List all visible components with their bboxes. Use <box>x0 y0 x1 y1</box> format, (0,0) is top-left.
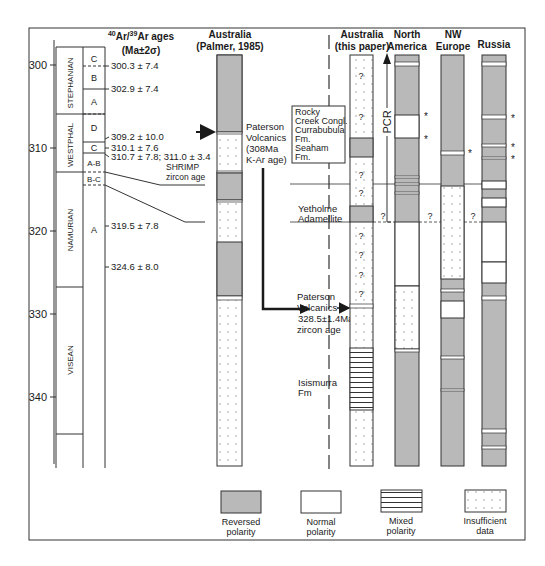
star-marker: * <box>511 142 515 153</box>
svg-text:Volcanics: Volcanics <box>246 132 286 143</box>
svg-text:zircon age: zircon age <box>297 324 341 335</box>
shrimp-label: SHRIMP <box>166 162 199 172</box>
ar-age-5: 310.7 ± 7.8; 311.0 ± 3.4 <box>111 151 211 162</box>
star-marker: * <box>468 148 472 159</box>
column-titles: Australia (Palmer, 1985) Australia (this… <box>196 29 510 52</box>
col-nwe-title2: Europe <box>436 41 471 52</box>
col-palmer-title1: Australia <box>209 29 252 40</box>
age-scale: 300 310 320 330 340 <box>29 40 56 464</box>
svg-text:Paterson: Paterson <box>246 121 284 132</box>
col-aus-title2: (this paper) <box>335 41 389 52</box>
tick-320: 320 <box>29 225 47 237</box>
rocky-creek-box: Rocky Creek Congl. Currabubula Fm. Seaha… <box>292 106 348 163</box>
connector-arrow <box>263 168 302 309</box>
question-mark: ? <box>358 170 363 180</box>
tick-340: 340 <box>29 391 47 403</box>
question-mark: ? <box>470 211 475 221</box>
substage-c-lower: C <box>91 143 98 153</box>
ar-age-6: 319.5 ± 7.8 <box>111 220 158 231</box>
col-russia-title: Russia <box>478 39 511 50</box>
question-mark: ? <box>358 270 363 280</box>
column-russia: * * * <box>482 55 515 466</box>
pcr-indicator: PCR ? <box>380 53 394 222</box>
question-mark: ? <box>358 250 363 260</box>
question-mark: ? <box>358 231 363 241</box>
col-nwe-title1: NW <box>445 29 462 40</box>
arrow-up-icon <box>383 53 391 64</box>
col-na-title2: America <box>387 41 427 52</box>
zircon-age-label: zircon age <box>166 172 205 182</box>
question-mark: ? <box>358 188 363 198</box>
stage-westphal: WESTPHAL <box>66 122 75 167</box>
star-marker: * <box>511 154 515 165</box>
legend-swatch-reversed <box>221 491 261 513</box>
column-nw-europe: * ? <box>441 55 476 466</box>
substage-b: B <box>91 73 97 83</box>
legend: Reversed polarity Normal polarity Mixed … <box>221 490 507 537</box>
ar-age-7: 324.6 ± 8.0 <box>111 261 158 272</box>
polarity-correlation-diagram: 300 310 320 330 340 STEPHANIAN WESTPHAL … <box>0 0 545 566</box>
svg-text:Normal: Normal <box>306 517 335 527</box>
substage-a-upper: A <box>91 97 97 107</box>
substage-c-upper: C <box>91 54 98 64</box>
svg-text:Mixed: Mixed <box>389 516 413 526</box>
svg-text:(Ma±2σ): (Ma±2σ) <box>122 45 160 56</box>
substage-d: D <box>91 123 98 133</box>
svg-text:(308Ma: (308Ma <box>246 143 279 154</box>
svg-text:328.5±1.4Ma: 328.5±1.4Ma <box>298 313 354 324</box>
svg-text:Paterson: Paterson <box>297 291 335 302</box>
ar-age-3: 309.2 ± 10.0 <box>111 131 164 142</box>
col-palmer-title2: (Palmer, 1985) <box>196 41 263 52</box>
ar-age-2: 302.9 ± 7.4 <box>111 83 158 94</box>
substage-b-c: B-C <box>87 175 101 184</box>
svg-text:K-Ar age): K-Ar age) <box>246 154 287 165</box>
tick-330: 330 <box>29 308 47 320</box>
svg-text:polarity: polarity <box>386 526 416 536</box>
svg-text:Insufficient: Insufficient <box>464 516 507 526</box>
ar-age-1: 300.3 ± 7.4 <box>111 60 158 71</box>
star-marker: * <box>511 113 515 124</box>
legend-swatch-normal <box>301 491 341 513</box>
svg-text:40Ar/39Ar ages: 40Ar/39Ar ages <box>108 30 175 42</box>
svg-text:Volcanics: Volcanics <box>297 302 337 313</box>
isismurra-fm-label: Fm <box>298 387 312 398</box>
col-aus-title1: Australia <box>341 29 384 40</box>
column-north-america: * * ? <box>395 55 433 466</box>
star-marker: * <box>424 134 428 145</box>
star-marker: * <box>424 111 428 122</box>
svg-text:polarity: polarity <box>226 527 256 537</box>
stage-visean: VISEAN <box>66 345 75 375</box>
paterson-zircon-annotation: Paterson Volcanics 328.5±1.4Ma zircon ag… <box>297 291 354 335</box>
ar-ages-header: 40Ar/39Ar ages (Ma±2σ) <box>108 30 175 56</box>
question-mark: ? <box>427 211 432 221</box>
column-australia-this-paper: ? ? ? ? ? ? ? ? <box>350 55 373 466</box>
question-mark: ? <box>380 211 385 221</box>
tick-300: 300 <box>29 59 47 71</box>
question-mark: ? <box>358 71 363 81</box>
substage-a-b: A-B <box>87 159 100 168</box>
pcr-label: PCR <box>381 110 393 133</box>
ar-ages-list: 300.3 ± 7.4 302.9 ± 7.4 309.2 ± 10.0 310… <box>105 60 211 272</box>
svg-text:Fm.: Fm. <box>295 152 311 162</box>
question-mark: ? <box>358 112 363 122</box>
svg-text:polarity: polarity <box>306 527 336 537</box>
stratigraphy-columns: STEPHANIAN WESTPHAL NAMURIAN VISEAN C B … <box>56 47 105 468</box>
tick-310: 310 <box>29 142 47 154</box>
legend-swatch-mixed <box>381 490 422 512</box>
correlation-line-2 <box>105 185 205 222</box>
substage-a-lower: A <box>91 225 97 235</box>
svg-text:Reversed: Reversed <box>222 517 261 527</box>
column-palmer <box>217 55 242 466</box>
legend-swatch-insufficient <box>465 490 506 512</box>
svg-text:data: data <box>476 526 494 536</box>
stage-namurian: NAMURIAN <box>66 208 75 251</box>
adamellite-label: Adamellite <box>298 213 342 224</box>
col-na-title1: North <box>394 29 421 40</box>
stage-stephanian: STEPHANIAN <box>66 57 75 108</box>
question-mark: ? <box>358 289 363 299</box>
